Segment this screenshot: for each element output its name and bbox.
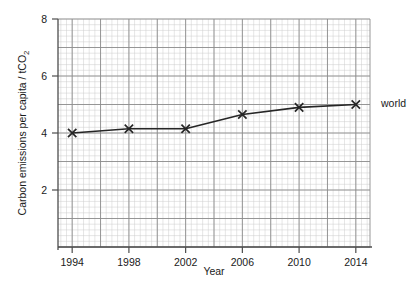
x-tick-label: 1998 bbox=[117, 256, 141, 268]
x-tick-label: 2006 bbox=[231, 256, 255, 268]
plot-area bbox=[58, 19, 370, 247]
y-tick-label: 2 bbox=[41, 184, 47, 196]
y-tick-label: 4 bbox=[41, 127, 47, 139]
x-tick-label: 1994 bbox=[61, 256, 85, 268]
x-tick-label: 2010 bbox=[287, 256, 311, 268]
series-label-world: world bbox=[380, 97, 406, 109]
chart-figure: 2468 199419982002200620102014 Carbon emi… bbox=[0, 0, 418, 290]
y-axis-title-subscript: 2 bbox=[22, 51, 31, 55]
y-tick-label: 8 bbox=[41, 13, 47, 25]
x-tick-label: 2014 bbox=[344, 256, 368, 268]
line-chart-svg: 2468 199419982002200620102014 Carbon emi… bbox=[0, 0, 418, 290]
x-axis-title: Year bbox=[203, 265, 225, 277]
x-tick-label: 2002 bbox=[174, 256, 198, 268]
y-tick-label: 6 bbox=[41, 70, 47, 82]
y-axis-title-main: Carbon emissions per capita / tCO bbox=[16, 55, 28, 215]
